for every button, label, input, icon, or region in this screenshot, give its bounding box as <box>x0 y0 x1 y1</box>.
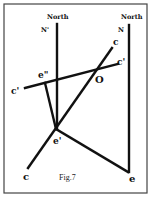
label-north-right: North <box>121 13 143 21</box>
label-c-prime-right: c' <box>117 57 125 67</box>
line-eprime-e <box>56 129 128 172</box>
label-c-top: c <box>113 37 119 47</box>
label-c-bottom: c <box>23 171 29 182</box>
label-o: O <box>95 74 104 85</box>
figure-caption: Fig.7 <box>59 173 76 182</box>
label-c-prime-left: c' <box>11 86 19 96</box>
diagram-figure-7: North North N' N c c' O e" c' e' c e Fig… <box>0 0 150 197</box>
label-n-prime: N' <box>41 26 49 34</box>
line-edoubleprime-eprime <box>45 83 56 129</box>
label-e-double-prime: e" <box>38 70 48 80</box>
label-e: e <box>129 173 135 184</box>
label-e-prime: e' <box>53 136 61 146</box>
label-n: N <box>118 26 124 34</box>
label-north-left: North <box>47 13 69 21</box>
line-c-c <box>28 48 112 168</box>
